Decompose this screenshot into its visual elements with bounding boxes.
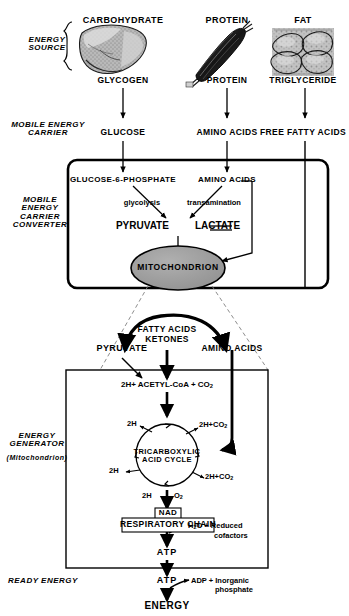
label-nad: NAD — [159, 509, 178, 517]
pyruvate-lactate-row: PYRUVATELACTATE — [116, 221, 240, 232]
arrow-aa-to-mito — [222, 227, 252, 261]
atp-inner: ATP — [157, 548, 177, 557]
adp-phosphate-output: ADP + Inorganic phosphate — [191, 576, 253, 595]
tier-converter-line4: CONVERTER — [12, 221, 68, 229]
acetyl-2h: 2H+ — [121, 380, 136, 389]
chain-output-cofactors: H2O + Reduced cofactors — [188, 521, 248, 540]
chain-output-water: H2O + Reduced — [188, 521, 248, 531]
carrier-free-fatty-acids: FREE FATTY ACIDS — [260, 128, 346, 137]
tier-ready-energy-line1: READY ENERGY — [8, 577, 78, 585]
chain-input-o2: O2 — [174, 492, 183, 501]
label-pyruvate: PYRUVATE — [116, 220, 169, 231]
label-energy: ENERGY — [144, 601, 189, 612]
cycle-label-line2: ACID CYCLE — [134, 456, 201, 464]
arrow-co2-upper-right — [186, 428, 198, 434]
generator-input-fatty-acids: FATTY ACIDS — [137, 325, 196, 334]
source-store-glycogen: GLYCOGEN — [97, 76, 148, 85]
diagram-canvas: ENERGY SOURCE MOBILE ENERGY CARRIER MOBI… — [0, 0, 349, 616]
generator-input-amino-acids: AMINO ACIDS — [201, 344, 262, 353]
process-transamination: transamination — [187, 199, 241, 207]
carrier-glucose: GLUCOSE — [101, 128, 146, 137]
source-arrows — [123, 88, 305, 118]
adipose-illustration — [271, 28, 334, 76]
source-title-protein: PROTEIN — [206, 16, 249, 25]
acetyl-compound: ACETYL-CoA — [138, 380, 189, 389]
arrow-aminoacids-cycle — [222, 350, 232, 450]
source-title-fat: FAT — [294, 16, 312, 25]
arrow-pyruvate-acetyl — [122, 358, 142, 378]
tier-label-ready-energy: READY ENERGY — [8, 577, 78, 585]
carrier-to-converter — [123, 141, 227, 172]
label-mitochondrion: MITOCHONDRION — [137, 263, 218, 272]
tier-label-mobile-carrier: MOBILE ENERGY CARRIER — [6, 121, 90, 138]
arrow-2h-lower-left — [126, 470, 140, 472]
carrier-amino-acids: AMINO ACIDS — [196, 128, 257, 137]
chain-output-cofactors-line2: cofactors — [214, 531, 248, 540]
cycle-output-2h-lower-left: 2H — [109, 467, 119, 475]
adp-line2: phosphate — [215, 585, 253, 594]
source-store-triglyceride: TRIGLYCERIDE — [269, 76, 336, 85]
acetyl-coa-equation: 2H+ ACETYL-CoA + CO2 — [121, 381, 213, 389]
generator-arrows — [122, 350, 232, 450]
chain-input-2h: 2H — [142, 492, 152, 500]
liver-illustration — [80, 25, 147, 74]
arrow-co2-lower-right — [192, 472, 204, 478]
tier-label-energy-generator: ENERGY GENERATOR (Mitochondrion) — [6, 432, 68, 461]
tier-energy-source-line2: SOURCE — [18, 44, 76, 52]
source-title-carbohydrate: CARBOHYDRATE — [83, 16, 164, 25]
label-lactate: LACTATE — [195, 220, 240, 231]
acetyl-co2: CO — [198, 380, 210, 389]
tier-label-carrier-converter: MOBILE ENERGY CARRIER CONVERTER — [12, 196, 68, 230]
adp-line1: ADP + Inorganic — [191, 576, 253, 585]
generator-input-ketones: KETONES — [145, 335, 189, 344]
converter-input-g6p: GLUCOSE-6-PHOSPHATE — [70, 176, 176, 184]
tier-generator-line3: (Mitochondrion) — [6, 454, 68, 461]
generator-input-pyruvate: PYRUVATE — [97, 344, 148, 353]
cycle-label: TRICARBOXYLIC ACID CYCLE — [134, 448, 201, 464]
process-glycolysis: glycolysis — [124, 199, 160, 207]
cycle-output-co2-lower-right: 2H+CO2 — [205, 473, 233, 482]
acetyl-plus: + — [191, 380, 196, 389]
source-store-protein: PROTEIN — [207, 76, 248, 85]
acetyl-co2-sub: 2 — [210, 383, 213, 389]
tier-generator-line2: GENERATOR — [6, 440, 68, 448]
tier-label-energy-source: ENERGY SOURCE — [18, 36, 76, 53]
tier-mobile-carrier-line2: CARRIER — [6, 129, 90, 137]
cycle-output-2h-upper-left: 2H — [127, 420, 137, 428]
atp-ready: ATP — [157, 576, 177, 585]
converter-input-amino-acids: AMINO ACIDS — [198, 176, 256, 184]
cycle-output-co2-upper-right: 2H+CO2 — [199, 421, 227, 430]
